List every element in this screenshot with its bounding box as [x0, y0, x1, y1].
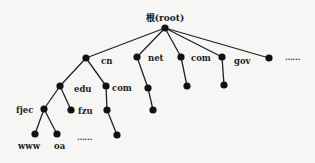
tree-node-net-c2: [149, 106, 156, 113]
tree-edge: [106, 86, 107, 110]
tree-edge: [60, 86, 71, 110]
tree-edge: [44, 109, 57, 134]
root-label: 根(root): [146, 12, 184, 23]
tree-edge: [35, 109, 44, 134]
ellipsis-more: ……: [285, 52, 301, 62]
root-node: [161, 24, 168, 31]
node-label-com-cn: com: [112, 83, 132, 93]
tree-node-gov: [218, 53, 225, 60]
domain-tree-diagram: 根(root)cnnetcomgoveducomfjecfzuwwwoa…………: [0, 0, 315, 163]
tree-edge: [44, 86, 60, 109]
tree-node-net: [133, 53, 140, 60]
ellipsis-more: ……: [77, 132, 93, 142]
tree-node-more-top: [265, 54, 272, 61]
node-label-www: www: [17, 141, 41, 151]
node-label-edu: edu: [74, 84, 92, 94]
tree-edge: [60, 58, 86, 86]
tree-node-gov-c1: [220, 81, 227, 88]
tree-node-oa: [53, 130, 60, 137]
tree-node-com-cn: [102, 82, 109, 89]
node-label-gov: gov: [234, 56, 252, 66]
tree-node-fzu: [67, 106, 74, 113]
node-label-fzu: fzu: [78, 106, 93, 116]
tree-edge: [137, 57, 148, 88]
tree-node-cn: [82, 54, 89, 61]
node-label-oa: oa: [54, 141, 66, 151]
tree-edge: [222, 57, 224, 85]
tree-node-com-top: [177, 53, 184, 60]
tree-node-com-c1: [183, 82, 190, 89]
tree-node-fjec: [40, 105, 47, 112]
tree-node-edu: [56, 82, 63, 89]
tree-node-www: [31, 130, 38, 137]
tree-node-com-cn-c1: [103, 106, 110, 113]
node-label-net: net: [148, 53, 164, 63]
tree-labels: 根(root)cnnetcomgoveducomfjecfzuwwwoa…………: [16, 12, 301, 151]
node-label-cn: cn: [101, 56, 112, 66]
tree-node-net-c1: [144, 84, 151, 91]
tree-node-com-cn-c2: [113, 131, 120, 138]
node-label-com-top: com: [191, 53, 211, 63]
tree-edge: [107, 110, 117, 135]
tree-edge: [181, 57, 187, 86]
node-label-fjec: fjec: [16, 105, 33, 115]
tree-edges: [35, 28, 269, 135]
